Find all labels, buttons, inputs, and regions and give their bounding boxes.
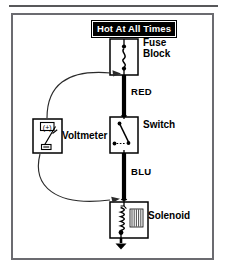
fuse-block-symbol	[110, 39, 138, 75]
fuse-block-label-line2: Block	[143, 48, 170, 59]
wiring-diagram-canvas: (+)	[0, 0, 227, 272]
switch-label: Switch	[143, 120, 175, 131]
fuse-block-label-line1: Fuse	[143, 37, 166, 48]
probe-arrow-lower	[38, 154, 120, 203]
probe-arrow-upper	[47, 70, 121, 118]
fuse-block-label: FuseBlock	[143, 38, 170, 60]
voltmeter-symbol: (+)	[33, 119, 62, 153]
wire-blu	[121, 153, 127, 200]
wire-blu-label: BLU	[131, 167, 151, 177]
wire-red-label: RED	[131, 87, 152, 97]
solenoid-symbol	[110, 200, 148, 238]
switch-symbol	[110, 115, 138, 154]
title-banner: Hot At All Times	[91, 20, 177, 38]
voltmeter-plus-terminal: (+)	[43, 124, 52, 132]
wire-red	[121, 74, 127, 117]
voltmeter-label: Voltmeter	[62, 131, 107, 142]
solenoid-core-hatch	[130, 209, 143, 227]
solenoid-label: Solenoid	[148, 211, 190, 222]
ground-symbol	[116, 238, 127, 250]
diagram-page: (+) Hot At All Times FuseBlock Switch So…	[0, 0, 227, 272]
